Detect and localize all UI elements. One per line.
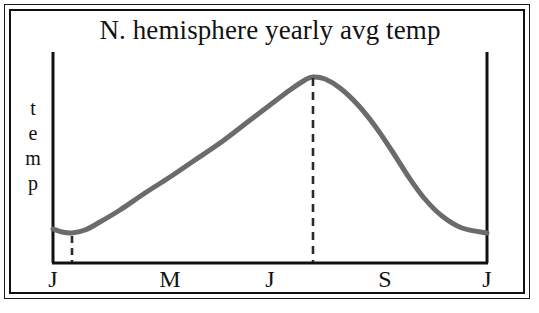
temperature-curve [53,77,487,233]
x-tick-label-sep: S [365,264,405,294]
axes [52,52,488,263]
figure-page: N. hemisphere yearly avg temp t e m p J … [0,0,539,313]
x-tick-label-jul: J [250,264,290,294]
x-tick-label-jan-end: J [467,264,507,294]
x-tick-label-jan-start: J [33,264,73,294]
x-tick-label-mar: M [150,264,190,294]
x-axis-tick-labels: J M J S J [0,264,539,298]
